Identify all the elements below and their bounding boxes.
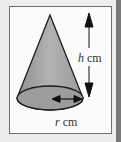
height-var: h — [78, 51, 84, 65]
radius-var: r — [55, 115, 60, 129]
height-label: h cm — [78, 51, 102, 65]
cone-diagram: h cm r cm — [0, 0, 121, 142]
radius-unit: cm — [63, 115, 78, 129]
cone-base — [17, 86, 83, 110]
radius-label: r cm — [55, 115, 78, 129]
height-unit: cm — [87, 51, 102, 65]
